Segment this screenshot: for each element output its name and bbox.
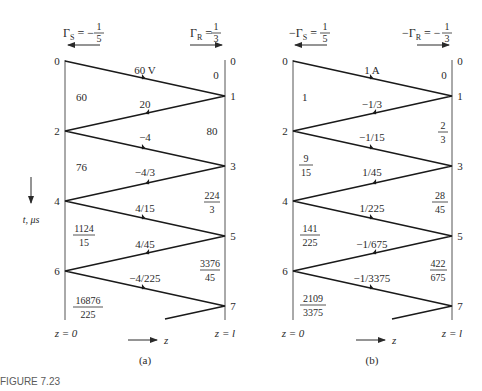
tick-right-3-a: 3 — [230, 160, 236, 172]
tick-left-2-a: 2 — [54, 125, 60, 137]
tick-left-0-a: 0 — [54, 55, 60, 67]
svg-text:1: 1 — [323, 21, 328, 32]
tick-right-5-a: 5 — [230, 230, 236, 242]
svg-text:225: 225 — [81, 309, 96, 320]
tick-left-0-b: 0 — [282, 55, 288, 67]
wave-label-b-4: 1/45 — [362, 166, 382, 178]
z-left-label-b: z = 0 — [281, 327, 305, 339]
svg-text:422: 422 — [431, 258, 446, 269]
wave-label-b-2: −1/3 — [362, 98, 383, 110]
svg-text:45: 45 — [435, 204, 445, 215]
left-value-a-1: 60 — [76, 91, 88, 103]
right-value-b-2: 2 3 — [438, 120, 448, 145]
svg-text:15: 15 — [301, 167, 311, 178]
wave-label-b-5: 1/225 — [359, 202, 385, 214]
z-axis-label-a: z — [163, 334, 169, 346]
svg-text:3: 3 — [210, 204, 215, 215]
svg-text:−ΓR = −: −ΓR = − — [402, 26, 441, 42]
wave-label-a-5: 4/15 — [135, 202, 155, 214]
panel-caption-a: (a) — [139, 354, 152, 367]
svg-text:1: 1 — [214, 21, 219, 32]
z-right-label-b: z = l — [441, 327, 462, 339]
right-value-b-1: 0 — [441, 69, 447, 81]
panel-b: −ΓS = 1 5 −ΓR = − 1 3 0 2 4 6 0 — [281, 21, 464, 367]
svg-text:1124: 1124 — [74, 223, 94, 234]
tick-right-5-b: 5 — [457, 230, 463, 242]
svg-text:3: 3 — [214, 33, 219, 44]
gamma-r-label-a: ΓR = 1 3 — [190, 21, 221, 44]
wave-label-a-7: −4/225 — [129, 272, 161, 284]
panel-a: ΓS = − 1 5 ΓR = 1 3 0 — [54, 21, 237, 367]
bounce-diagram-figure: ΓS = − 1 5 ΓR = 1 3 0 — [0, 0, 482, 391]
tick-right-1-a: 1 — [230, 90, 236, 102]
figure-caption: FIGURE 7.23 — [0, 376, 60, 387]
left-value-a-4: 16876 225 — [73, 295, 103, 320]
svg-text:−ΓS =: −ΓS = — [289, 26, 317, 42]
svg-text:45: 45 — [205, 272, 215, 283]
svg-text:5: 5 — [323, 33, 328, 44]
svg-text:2: 2 — [441, 120, 446, 131]
svg-text:1: 1 — [445, 21, 450, 32]
svg-text:5: 5 — [97, 33, 102, 44]
wave-label-a-2: 20 — [140, 98, 152, 110]
left-value-b-1: 1 — [302, 91, 308, 103]
tick-left-2-b: 2 — [282, 125, 288, 137]
gamma-s-label-b: −ΓS = 1 5 — [289, 21, 330, 44]
svg-text:ΓS = −: ΓS = − — [63, 26, 94, 42]
wave-label-b-7: −1/3375 — [354, 272, 391, 284]
wave-label-b-1: 1 A — [364, 64, 380, 76]
right-value-a-2: 80 — [207, 125, 219, 137]
tick-right-0-a: 0 — [230, 55, 236, 67]
svg-text:ΓR =: ΓR = — [190, 26, 212, 42]
wave-label-a-3: −4 — [139, 131, 151, 143]
svg-text:3375: 3375 — [303, 307, 323, 318]
z-right-label-a: z = l — [214, 327, 235, 339]
right-value-a-3: 224 3 — [204, 190, 220, 215]
wave-label-b-3: −1/15 — [359, 131, 385, 143]
wave-label-a-1: 60 V — [134, 64, 156, 76]
tick-right-0-b: 0 — [457, 55, 463, 67]
tick-left-6-a: 6 — [54, 265, 60, 277]
svg-text:3376: 3376 — [200, 258, 220, 269]
svg-text:224: 224 — [205, 190, 220, 201]
tick-right-7-a: 7 — [230, 300, 236, 312]
wave-label-b-6: −1/675 — [356, 238, 388, 250]
gamma-r-label-b: −ΓR = − 1 3 — [402, 21, 452, 44]
right-value-a-4: 3376 45 — [200, 258, 220, 283]
tick-left-4-a: 4 — [54, 195, 60, 207]
svg-text:3: 3 — [445, 33, 450, 44]
left-value-b-4: 2109 3375 — [300, 293, 326, 318]
right-value-b-4: 422 675 — [430, 258, 447, 283]
right-value-a-1: 0 — [213, 69, 219, 81]
left-value-a-3: 1124 15 — [73, 223, 95, 248]
tick-right-7-b: 7 — [457, 300, 463, 312]
tick-right-1-b: 1 — [457, 90, 463, 102]
svg-text:1: 1 — [97, 21, 102, 32]
z-left-label-a: z = 0 — [54, 327, 78, 339]
tick-left-6-b: 6 — [282, 265, 288, 277]
tick-left-4-b: 4 — [282, 195, 288, 207]
panel-caption-b: (b) — [366, 354, 379, 367]
svg-text:3: 3 — [441, 134, 446, 145]
left-value-b-2: 9 15 — [299, 153, 313, 178]
svg-text:16876: 16876 — [76, 295, 101, 306]
wave-label-a-4: −4/3 — [135, 166, 156, 178]
svg-text:675: 675 — [431, 272, 446, 283]
svg-text:28: 28 — [435, 190, 445, 201]
z-axis-label-b: z — [391, 334, 397, 346]
time-axis-label: t, μs — [23, 214, 40, 225]
right-value-b-3: 28 45 — [432, 190, 448, 215]
tick-right-3-b: 3 — [457, 160, 463, 172]
svg-text:9: 9 — [304, 153, 309, 164]
svg-text:141: 141 — [303, 223, 318, 234]
left-value-a-2: 76 — [76, 161, 88, 173]
left-value-b-3: 141 225 — [300, 223, 320, 248]
gamma-s-label-a: ΓS = − 1 5 — [63, 21, 104, 44]
svg-text:15: 15 — [79, 237, 89, 248]
wave-label-a-6: 4/45 — [135, 238, 155, 250]
svg-text:225: 225 — [303, 237, 318, 248]
svg-text:2109: 2109 — [303, 293, 323, 304]
